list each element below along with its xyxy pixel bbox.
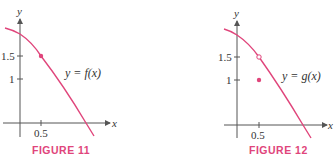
y-tick-label-1.5: 1.5 xyxy=(218,51,232,63)
figure-11: y x 1.5 1 0.5 y = f(x) FIGURE 11 xyxy=(1,5,117,156)
curve-f xyxy=(5,28,94,136)
filled-point xyxy=(257,78,261,82)
function-label: y = g(x) xyxy=(281,69,321,83)
y-tick-label-1: 1 xyxy=(9,73,15,85)
function-label: y = f(x) xyxy=(64,66,101,80)
figures-canvas: y x 1.5 1 0.5 y = f(x) FIGURE 11 y x 1.5… xyxy=(0,0,334,168)
x-tick-label-0.5: 0.5 xyxy=(34,127,48,139)
filled-point xyxy=(39,54,43,58)
x-axis-label: x xyxy=(327,119,333,131)
figure-caption: FIGURE 11 xyxy=(32,144,90,156)
y-axis-label: y xyxy=(16,5,22,17)
open-point xyxy=(257,55,261,59)
x-axis-label: x xyxy=(111,117,117,129)
y-tick-label-1.5: 1.5 xyxy=(1,50,15,62)
x-tick-label-0.5: 0.5 xyxy=(251,129,265,141)
figure-caption: FIGURE 12 xyxy=(249,144,308,156)
y-tick-label-1: 1 xyxy=(226,74,232,86)
figure-12: y x 1.5 1 0.5 y = g(x) FIGURE 12 xyxy=(218,7,333,156)
y-axis-label: y xyxy=(233,7,239,19)
